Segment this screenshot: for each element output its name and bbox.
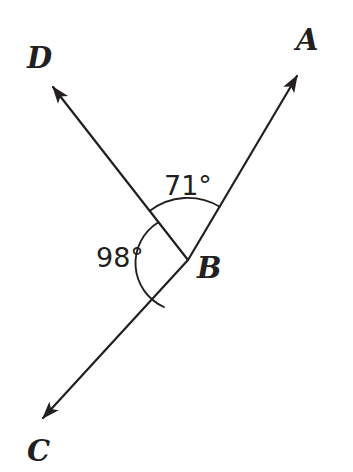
angle-measure-71: 71° xyxy=(164,172,212,199)
ray-BC xyxy=(43,260,188,418)
point-label-d: D xyxy=(27,44,52,73)
point-label-b: B xyxy=(197,254,222,283)
ray-BA xyxy=(188,76,297,260)
point-label-a: A xyxy=(296,26,319,55)
angle-measure-98: 98° xyxy=(96,244,144,271)
geometry-canvas xyxy=(0,0,353,472)
geometry-diagram: A D B C 71° 98° xyxy=(0,0,353,472)
point-label-c: C xyxy=(27,437,50,466)
